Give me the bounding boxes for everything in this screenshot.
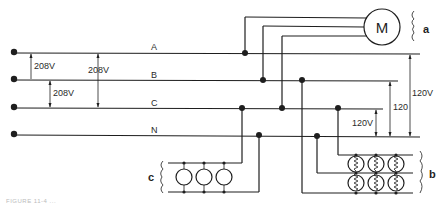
heater-element-icon — [388, 153, 404, 194]
line-b — [14, 80, 398, 81]
load-group-c — [168, 105, 262, 194]
lamp-icon — [176, 161, 192, 193]
load-group-b — [299, 77, 413, 195]
group-label-a: a — [423, 23, 430, 35]
line-n — [14, 135, 420, 137]
brace-c-icon — [161, 161, 163, 193]
heater-element-icon — [348, 153, 364, 194]
figure-caption: FIGURE 11-4 ... — [6, 198, 56, 204]
voltage-label-bn: 120 — [393, 102, 408, 112]
motor-label: M — [376, 19, 389, 36]
lamp-icon — [196, 161, 212, 193]
label-line-b: B — [151, 70, 157, 80]
voltage-label-cn: 120V — [352, 118, 373, 128]
brace-a-icon — [412, 11, 414, 41]
line-c — [14, 108, 383, 109]
lamp-icon — [216, 161, 232, 193]
voltage-label-an: 120V — [412, 88, 433, 98]
voltage-label-bc: 208V — [53, 88, 74, 98]
terminal-a — [11, 49, 17, 55]
voltage-label-ac: 208V — [88, 65, 109, 75]
label-line-a: A — [151, 42, 157, 52]
voltage-label-ab: 208V — [34, 61, 55, 71]
label-line-c: C — [151, 98, 158, 108]
terminal-b — [11, 76, 17, 82]
terminal-c — [11, 104, 17, 110]
terminal-n — [11, 131, 17, 137]
brace-b-icon — [420, 151, 422, 193]
heater-element-icon — [368, 153, 384, 194]
three-phase-wiring-diagram: A B C N 208V 208V 208V M a — [0, 0, 443, 205]
label-line-n: N — [151, 125, 158, 135]
group-label-b: b — [429, 168, 436, 180]
group-label-c: c — [148, 171, 154, 183]
voltage-arrows-120 — [375, 55, 412, 137]
line-a — [14, 53, 420, 54]
